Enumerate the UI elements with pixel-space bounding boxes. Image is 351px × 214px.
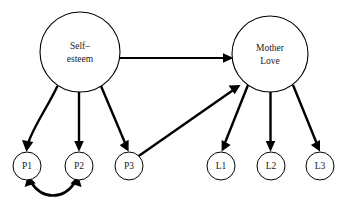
arrowhead	[266, 141, 276, 152]
p3-label: P3	[124, 161, 134, 171]
edge-self-esteem-to-p1	[22, 86, 58, 152]
edge-self-esteem-to-p3	[101, 86, 129, 152]
edge-mother-love-to-l2	[266, 92, 276, 152]
edge-self-esteem-to-mother-love	[119, 53, 234, 63]
path-diagram-svg: Self– esteem Mother Love P1 P2 P3 L1	[0, 0, 351, 214]
edge-line	[293, 85, 317, 144]
self-esteem-label-line2: esteem	[67, 54, 94, 64]
node-l2[interactable]: L2	[257, 152, 285, 180]
l2-label: L2	[266, 161, 277, 171]
mother-love-label-line2: Love	[260, 56, 280, 66]
mother-love-label-line1: Mother	[256, 43, 285, 53]
node-l1[interactable]: L1	[207, 152, 235, 180]
node-p3[interactable]: P3	[115, 152, 143, 180]
node-l3[interactable]: L3	[306, 152, 334, 180]
edge-line	[138, 90, 234, 157]
edge-line	[28, 86, 58, 145]
self-esteem-circle[interactable]	[40, 12, 120, 92]
arrowhead	[22, 140, 33, 152]
edge-line	[31, 182, 75, 196]
l3-label: L3	[315, 161, 326, 171]
path-diagram-canvas: Self– esteem Mother Love P1 P2 P3 L1	[0, 0, 351, 214]
p2-label: P2	[74, 161, 84, 171]
node-p1[interactable]: P1	[13, 152, 41, 180]
l1-label: L1	[216, 161, 227, 171]
mother-love-circle[interactable]	[232, 16, 308, 92]
arrowhead	[74, 141, 84, 152]
node-self-esteem[interactable]: Self– esteem	[40, 12, 120, 92]
p1-label: P1	[22, 161, 32, 171]
node-p2[interactable]: P2	[65, 152, 93, 180]
self-esteem-label-line1: Self–	[70, 41, 90, 51]
edge-line	[101, 86, 126, 144]
edge-mother-love-to-l3	[293, 85, 320, 152]
edge-self-esteem-to-p2	[74, 92, 84, 152]
node-mother-love[interactable]: Mother Love	[232, 16, 308, 92]
